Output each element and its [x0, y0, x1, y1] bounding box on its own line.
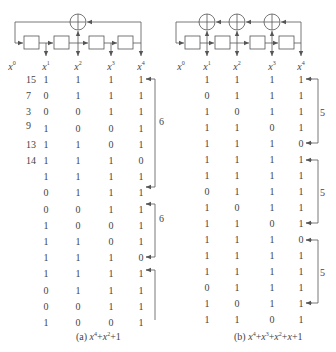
state-bit: 0	[201, 187, 213, 197]
state-bit: 1	[105, 302, 117, 312]
state-bit: 1	[266, 203, 278, 213]
state-bit: 1	[231, 251, 243, 261]
period-length-label: 6	[159, 213, 164, 224]
register-cell	[185, 36, 200, 49]
state-bit: 0	[295, 139, 307, 149]
state-bit: 1	[40, 237, 52, 247]
state-bit: 1	[105, 156, 117, 166]
state-bit: 1	[135, 107, 147, 117]
tap-label-x3: x3	[101, 60, 121, 72]
xor-gate-icon	[264, 14, 280, 30]
state-bit: 0	[105, 221, 117, 231]
state-bit: 1	[295, 267, 307, 277]
state-bit: 1	[231, 139, 243, 149]
state-bit: 1	[135, 237, 147, 247]
state-bit: 0	[201, 91, 213, 101]
state-bit: 1	[135, 318, 147, 328]
state-bit: 1	[72, 156, 84, 166]
state-bit: 1	[72, 253, 84, 263]
state-bit: 0	[231, 299, 243, 309]
period-length-label: 5	[320, 267, 325, 278]
state-bit: 1	[105, 107, 117, 117]
state-bit: 1	[135, 205, 147, 215]
state-bit: 1	[266, 155, 278, 165]
state-decimal-label: 13	[26, 140, 36, 150]
state-bit: 1	[266, 251, 278, 261]
state-bit: 1	[40, 269, 52, 279]
state-bit: 0	[105, 318, 117, 328]
tap-label-x1: x1	[197, 60, 217, 72]
period-brackets-a	[146, 79, 155, 320]
register-cell	[279, 36, 294, 49]
register-cell	[54, 36, 69, 49]
state-bit: 1	[266, 171, 278, 181]
state-bit: 1	[72, 188, 84, 198]
state-bit: 1	[40, 253, 52, 263]
state-bit: 1	[105, 75, 117, 85]
state-bit: 1	[266, 139, 278, 149]
caption-b-label: (b)	[234, 331, 246, 342]
state-bit: 1	[295, 75, 307, 85]
state-decimal-label: 7	[26, 91, 31, 101]
state-bit: 1	[72, 91, 84, 101]
state-bit: 0	[72, 205, 84, 215]
state-bit: 1	[295, 123, 307, 133]
state-bit: 0	[72, 124, 84, 134]
state-bit: 1	[231, 155, 243, 165]
state-bit: 0	[231, 107, 243, 117]
tap-label-x4: x4	[291, 60, 311, 72]
tap-label-x0: x0	[171, 60, 191, 72]
state-bit: 1	[201, 75, 213, 85]
state-bit: 0	[72, 221, 84, 231]
state-bit: 1	[266, 107, 278, 117]
state-bit: 0	[105, 237, 117, 247]
state-bit: 1	[201, 267, 213, 277]
state-bit: 1	[135, 286, 147, 296]
period-length-label: 6	[159, 116, 164, 127]
state-bit: 1	[72, 172, 84, 182]
state-bit: 1	[201, 219, 213, 229]
state-bit: 1	[231, 75, 243, 85]
state-bit: 1	[295, 203, 307, 213]
state-bit: 1	[295, 107, 307, 117]
state-bit: 1	[231, 315, 243, 325]
state-bit: 0	[40, 188, 52, 198]
state-bit: 1	[201, 171, 213, 181]
state-bit: 0	[72, 302, 84, 312]
state-bit: 1	[231, 123, 243, 133]
state-bit: 1	[40, 140, 52, 150]
state-decimal-label: 9	[26, 121, 31, 131]
state-bit: 1	[135, 172, 147, 182]
state-bit: 1	[266, 267, 278, 277]
register-cell	[24, 36, 39, 49]
state-bit: 1	[266, 235, 278, 245]
state-bit: 1	[201, 203, 213, 213]
state-bit: 1	[201, 123, 213, 133]
state-decimal-label: 15	[26, 75, 36, 85]
state-bit: 0	[72, 318, 84, 328]
state-bit: 0	[295, 235, 307, 245]
lfsr-a	[15, 14, 141, 56]
state-bit: 1	[135, 91, 147, 101]
state-bit: 1	[105, 269, 117, 279]
state-bit: 1	[135, 221, 147, 231]
state-bit: 1	[40, 156, 52, 166]
state-bit: 1	[201, 139, 213, 149]
tap-label-x3: x3	[262, 60, 282, 72]
state-bit: 0	[40, 91, 52, 101]
caption-b: (b) x4+x3+x2+x+1	[234, 331, 303, 342]
state-bit: 1	[201, 107, 213, 117]
state-bit: 1	[295, 299, 307, 309]
state-bit: 0	[201, 283, 213, 293]
state-bit: 1	[40, 221, 52, 231]
state-bit: 0	[72, 107, 84, 117]
state-bit: 1	[295, 315, 307, 325]
lfsr-b	[176, 14, 301, 56]
state-bit: 1	[72, 237, 84, 247]
state-bit: 1	[231, 235, 243, 245]
state-bit: 1	[231, 219, 243, 229]
xor-gate-icon	[199, 14, 215, 30]
state-bit: 1	[72, 269, 84, 279]
state-bit: 1	[72, 140, 84, 150]
state-bit: 1	[72, 75, 84, 85]
